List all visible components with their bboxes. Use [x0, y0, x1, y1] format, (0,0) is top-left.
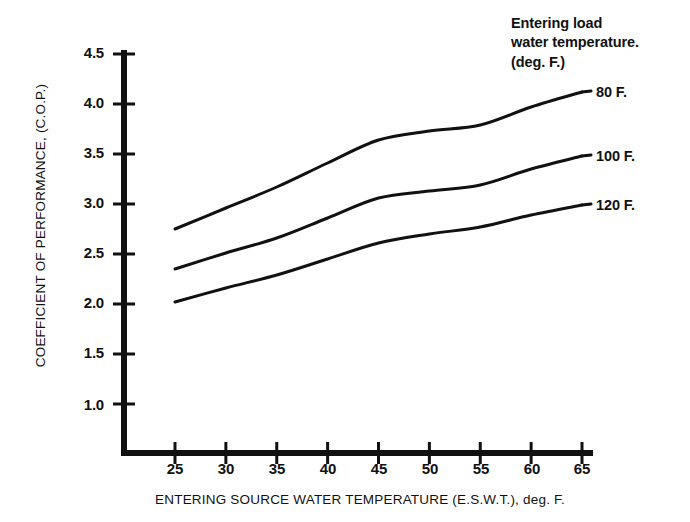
series-label-80f: 80 F.	[596, 85, 627, 100]
series-label-100f: 100 F.	[596, 149, 635, 164]
series-label-120f: 120 F.	[596, 198, 635, 213]
leader-line-2	[582, 204, 591, 205]
series-curve-120-f	[175, 205, 582, 302]
x-tick-label: 40	[308, 461, 348, 476]
y-tick-label: 3.5	[58, 145, 104, 160]
curves-group	[175, 92, 582, 302]
x-tick-label: 50	[410, 461, 450, 476]
x-tick-label: 60	[512, 461, 552, 476]
series-curve-80-f	[175, 92, 582, 229]
y-tick-label: 3.0	[58, 195, 104, 210]
y-tick-label: 2.0	[58, 295, 104, 310]
x-tick-label: 30	[206, 461, 246, 476]
x-tick-label: 35	[257, 461, 297, 476]
y-tick-label: 4.5	[58, 45, 104, 60]
legend-title-line-3: (deg. F.)	[511, 53, 639, 72]
y-tick-label: 1.5	[58, 345, 104, 360]
x-tick-label: 45	[359, 461, 399, 476]
x-axis-title: ENTERING SOURCE WATER TEMPERATURE (E.S.W…	[0, 492, 690, 507]
series-curve-100-f	[175, 156, 582, 269]
x-tick-label: 25	[155, 461, 195, 476]
leader-line-1	[582, 155, 591, 156]
legend-title-line-1: Entering load	[511, 14, 639, 33]
chart-plot-area	[0, 0, 690, 522]
y-tick-label: 1.0	[58, 397, 104, 412]
legend-leader-lines	[582, 91, 591, 205]
leader-line-0	[582, 91, 591, 92]
legend-title: Entering load water temperature. (deg. F…	[511, 14, 639, 72]
x-tick-label: 55	[461, 461, 501, 476]
x-tick-label: 65	[562, 461, 602, 476]
y-tick-label: 4.0	[58, 95, 104, 110]
chart-figure: 4.5 4.0 3.5 3.0 2.5 2.0 1.5 1.0 25 30 35…	[0, 0, 690, 522]
y-axis-title: COEFFICIENT OF PERFORMANCE, (C.O.P.)	[33, 46, 48, 406]
y-tick-label: 2.5	[58, 245, 104, 260]
legend-title-line-2: water temperature.	[511, 33, 639, 52]
